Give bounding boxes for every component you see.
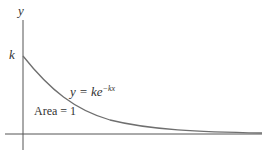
equation-exponent: −kx [103, 84, 116, 93]
curve-equation-label: y = ke−kx [70, 84, 115, 100]
equation-base: y = ke [70, 84, 103, 99]
graph-canvas [0, 0, 268, 155]
exponential-decay-curve [23, 56, 262, 133]
area-label: Area = 1 [34, 104, 76, 119]
y-axis-label: y [18, 3, 24, 19]
y-intercept-label: k [9, 47, 15, 63]
